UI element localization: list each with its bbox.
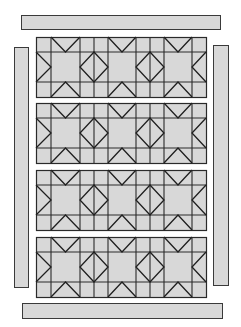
row-background	[37, 104, 207, 164]
left-border	[15, 48, 29, 288]
quilt-block-rows	[36, 37, 207, 298]
block-row-2	[36, 103, 207, 164]
block-row-3	[36, 170, 207, 231]
quilt-diagram	[0, 0, 241, 327]
row-background	[37, 38, 207, 98]
right-border	[214, 46, 229, 286]
block-row-1	[36, 37, 207, 98]
top-border	[22, 16, 221, 30]
block-row-4	[36, 237, 207, 298]
row-background	[37, 238, 207, 298]
bottom-border	[23, 304, 223, 319]
row-background	[37, 171, 207, 231]
